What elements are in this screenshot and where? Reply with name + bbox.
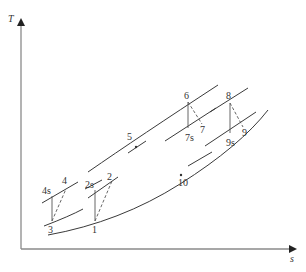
label-2s: 2s <box>85 179 94 190</box>
label-2: 2 <box>107 171 112 182</box>
x-axis-label: s <box>290 253 294 264</box>
label-7: 7 <box>200 124 205 135</box>
label-4s: 4s <box>42 185 51 196</box>
label-7s: 7s <box>185 132 194 143</box>
point-5-marker <box>135 146 137 148</box>
low-pressure-curve <box>48 110 268 235</box>
label-3: 3 <box>48 224 53 235</box>
label-4: 4 <box>62 175 67 186</box>
label-1: 1 <box>92 224 97 235</box>
state-points <box>135 146 182 176</box>
label-8: 8 <box>226 90 231 101</box>
process-lines <box>52 102 243 221</box>
label-5: 5 <box>127 131 132 142</box>
y-axis-label: T <box>8 13 15 24</box>
ts-diagram: T s 1 2 2s 3 4 4s 5 <box>0 0 306 272</box>
process-6-7 <box>188 102 202 124</box>
label-9s: 9s <box>226 137 235 148</box>
point-labels: 1 2 2s 3 4 4s 5 6 7 7s 8 9 9s 10 <box>42 90 247 235</box>
label-6: 6 <box>184 90 189 101</box>
process-8-9 <box>230 103 243 127</box>
process-3-4 <box>52 189 66 221</box>
label-10: 10 <box>178 177 188 188</box>
point-10-marker <box>180 174 182 176</box>
high-pressure-curve <box>88 85 218 172</box>
label-9: 9 <box>242 127 247 138</box>
curve-segment-10 <box>188 152 212 166</box>
